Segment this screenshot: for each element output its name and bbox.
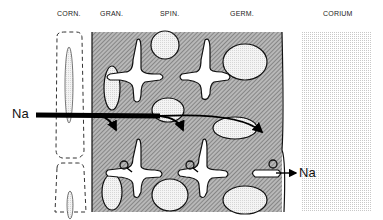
stratum-corneum xyxy=(55,32,86,219)
label-germinativum: GERM. xyxy=(230,10,254,17)
living-epidermis xyxy=(92,31,285,214)
epidermis-diagram xyxy=(0,0,383,220)
corium xyxy=(302,32,372,212)
label-granulosum: GRAN. xyxy=(100,10,123,17)
sodium-out-label: Na xyxy=(299,165,316,180)
label-corneum: CORN. xyxy=(57,10,81,17)
label-spinosum: SPIN. xyxy=(160,10,179,17)
label-corium: CORIUM xyxy=(323,10,353,17)
sodium-in-label: Na xyxy=(12,106,29,121)
